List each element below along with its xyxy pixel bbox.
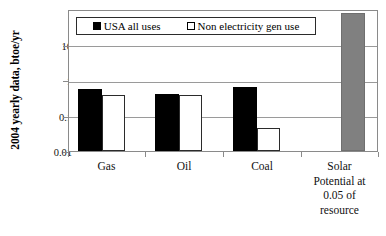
- category-separator-4: [378, 152, 379, 157]
- bar-gas-non-electricity-gen-use: [102, 95, 125, 151]
- category-separator-1: [145, 152, 146, 157]
- legend-label-non-electricity-gen-use: Non electricity gen use: [198, 20, 300, 32]
- category-separator-2: [223, 152, 224, 157]
- legend-item-usa-all-uses: USA all uses: [93, 20, 161, 32]
- category-label-oil: Oil: [145, 159, 223, 174]
- category-label-solar-line-1: Solar: [301, 159, 378, 174]
- category-label-solar-line-2: Potential at: [301, 174, 378, 189]
- plot-area: USA all uses Non electricity gen use: [68, 10, 378, 152]
- bar-coal-non-electricity-gen-use: [257, 128, 280, 151]
- category-label-solar: Solar Potential at 0.05 of resource: [301, 159, 378, 217]
- category-label-gas: Gas: [68, 159, 145, 174]
- category-label-solar-line-4: resource: [301, 203, 378, 218]
- category-label-coal: Coal: [223, 159, 301, 174]
- category-separator-0: [68, 152, 69, 157]
- bar-gas-usa-all-uses: [78, 89, 102, 151]
- bar-oil-non-electricity-gen-use: [179, 95, 202, 151]
- legend-swatch-hollow-icon: [187, 22, 195, 30]
- legend-item-non-electricity-gen-use: Non electricity gen use: [187, 20, 300, 32]
- legend: USA all uses Non electricity gen use: [76, 17, 316, 35]
- bar-oil-usa-all-uses: [155, 94, 179, 151]
- y-axis-title: 2004 yearly data, btoe/yr: [9, 15, 25, 165]
- category-label-solar-line-3: 0.05 of: [301, 188, 378, 203]
- category-separator-3: [301, 152, 302, 157]
- legend-label-usa-all-uses: USA all uses: [104, 20, 161, 32]
- bar-solar-potential: [341, 13, 365, 151]
- bar-coal-usa-all-uses: [233, 87, 257, 151]
- legend-swatch-filled-icon: [93, 22, 101, 30]
- bar-chart: 2004 yearly data, btoe/yr 10 1 0.1 0.01: [0, 0, 386, 236]
